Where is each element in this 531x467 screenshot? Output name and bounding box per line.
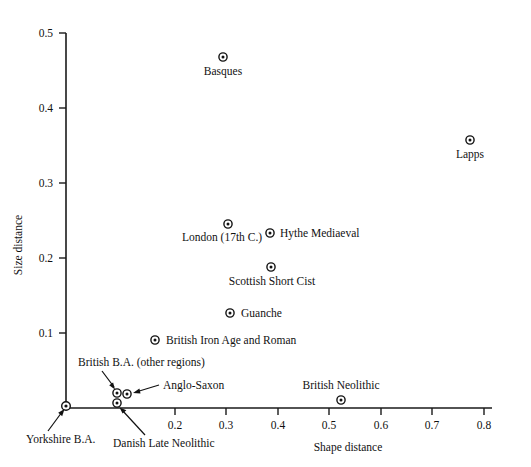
- point-label-london: London (17th C.): [182, 231, 262, 244]
- x-axis-ticks: 0.2 0.3 0.4 0.5 0.6 0.7 0.8: [168, 408, 492, 431]
- y-tick-label-0.3: 0.3: [39, 177, 54, 189]
- x-tick-label-0.2: 0.2: [168, 419, 183, 431]
- data-point-british-neolithic[interactable]: [337, 396, 345, 404]
- point-label-british-iron-age-and-roman: British Iron Age and Roman: [166, 334, 297, 347]
- data-point-london[interactable]: [224, 220, 232, 228]
- annotation-label-danish-late-neolithic: Danish Late Neolithic: [113, 437, 215, 449]
- point-label-lapps: Lapps: [456, 148, 485, 161]
- x-tick-label-0.8: 0.8: [477, 419, 492, 431]
- x-tick-label-0.3: 0.3: [219, 419, 234, 431]
- data-point-british-ba-other-regions[interactable]: [113, 389, 121, 397]
- x-axis-title: Shape distance: [314, 441, 383, 454]
- data-point-lapps[interactable]: [466, 136, 474, 144]
- marker-center-dot: [229, 312, 232, 315]
- annotation-arrow-danish-late-neolithic: [120, 408, 146, 436]
- annotation-arrow-british-ba: [102, 371, 115, 390]
- data-point-yorkshire-ba[interactable]: [62, 402, 71, 411]
- marker-center-dot: [270, 266, 273, 269]
- y-axis-ticks: 0.5 0.4 0.3 0.2 0.1: [39, 27, 66, 339]
- annotation-label-yorkshire-ba: Yorkshire B.A.: [26, 433, 96, 445]
- scatter-plot-figure: 0.5 0.4 0.3 0.2 0.1 0.2 0.3 0.4 0.5 0.6 …: [0, 0, 531, 467]
- marker-center-dot: [222, 56, 225, 59]
- annotation-arrow-anglo-saxon: [133, 385, 159, 393]
- data-point-guanche[interactable]: [226, 309, 234, 317]
- marker-center-dot: [116, 392, 119, 395]
- y-tick-label-0.1: 0.1: [39, 327, 54, 339]
- point-label-scottish-short-cist: Scottish Short Cist: [229, 275, 316, 287]
- marker-center-dot: [227, 223, 230, 226]
- annotation-label-anglo-saxon: Anglo-Saxon: [163, 379, 225, 392]
- marker-center-dot: [340, 399, 343, 402]
- point-label-hythe-mediaeval: Hythe Mediaeval: [280, 227, 360, 240]
- annotation-label-british-ba: British B.A. (other regions): [78, 356, 205, 369]
- y-tick-label-0.4: 0.4: [39, 102, 54, 114]
- x-tick-label-0.7: 0.7: [425, 419, 440, 431]
- marker-center-dot: [116, 402, 119, 405]
- data-point-british-iron-age-and-roman[interactable]: [151, 336, 159, 344]
- point-label-basques: Basques: [204, 65, 243, 78]
- x-tick-label-0.4: 0.4: [271, 419, 286, 431]
- marker-center-dot: [154, 339, 157, 342]
- data-point-basques[interactable]: [219, 53, 227, 61]
- x-tick-label-0.5: 0.5: [322, 419, 337, 431]
- y-tick-label-0.2: 0.2: [39, 252, 54, 264]
- x-tick-label-0.6: 0.6: [374, 419, 389, 431]
- point-label-guanche: Guanche: [241, 307, 282, 319]
- marker-center-dot: [269, 232, 272, 235]
- y-tick-label-0.5: 0.5: [39, 27, 54, 39]
- marker-center-dot: [469, 139, 472, 142]
- y-axis-title: Size distance: [12, 215, 24, 275]
- annotation-arrow-yorkshire-ba: [48, 409, 65, 431]
- data-point-hythe-mediaeval[interactable]: [266, 229, 274, 237]
- axes-group: [66, 33, 492, 408]
- data-point-danish-late-neolithic[interactable]: [113, 399, 121, 407]
- point-label-british-neolithic: British Neolithic: [303, 379, 380, 391]
- data-point-scottish-short-cist[interactable]: [267, 263, 275, 271]
- marker-center-dot: [126, 393, 129, 396]
- marker-center-dot: [64, 404, 67, 407]
- data-point-anglo-saxon[interactable]: [123, 390, 131, 398]
